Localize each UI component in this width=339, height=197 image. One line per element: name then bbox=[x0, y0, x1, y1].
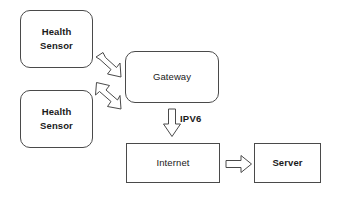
node-server: Server bbox=[254, 143, 321, 183]
node-health-sensor-2-label: Health Sensor bbox=[40, 105, 73, 133]
node-health-sensor-1-label: Health Sensor bbox=[40, 25, 73, 53]
node-gateway: Gateway bbox=[125, 51, 219, 103]
node-server-label: Server bbox=[272, 156, 302, 170]
arrow-sensor2-to-gateway-icon bbox=[94, 81, 124, 111]
node-health-sensor-2: Health Sensor bbox=[20, 90, 93, 148]
arrow-sensor1-to-gateway-icon bbox=[94, 51, 124, 79]
node-internet: Internet bbox=[126, 143, 220, 183]
node-gateway-label: Gateway bbox=[153, 70, 191, 84]
node-internet-label: Internet bbox=[156, 156, 189, 170]
arrow-internet-to-server-icon bbox=[225, 154, 253, 174]
arrow-gateway-to-internet-icon bbox=[162, 108, 182, 138]
node-health-sensor-1: Health Sensor bbox=[20, 10, 93, 68]
connector-label-ipv6: IPV6 bbox=[180, 113, 201, 124]
diagram-canvas: Health Sensor Health Sensor Gateway Inte… bbox=[0, 0, 339, 197]
